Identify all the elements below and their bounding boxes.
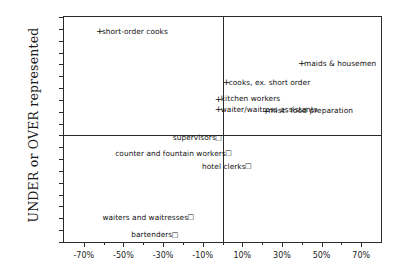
data-point-label: supervisors [173, 133, 216, 142]
data-point: +short-order cooks [96, 27, 104, 36]
y-axis-tick [59, 171, 64, 172]
x-axis-tick [322, 242, 323, 247]
zero-line-vertical [223, 17, 224, 242]
data-point: +kitchen workers [215, 94, 223, 103]
x-axis-tick [361, 242, 362, 247]
data-point-label: cooks, ex. short order [229, 78, 311, 87]
x-axis-tick [163, 242, 164, 247]
x-axis-tick [84, 242, 85, 247]
x-axis-tick-minor [104, 242, 105, 245]
y-axis-tick [59, 64, 64, 65]
scatter-chart: UNDER or OVER represented 100%90%80%70%6… [0, 0, 399, 278]
data-point-label: bartenders [131, 230, 172, 239]
x-axis-tick-minor [341, 242, 342, 245]
y-axis-tick [59, 17, 64, 18]
x-axis-tick-minor [183, 242, 184, 245]
data-point: +waiter/waitress assistants [215, 105, 223, 114]
x-axis-tick-minor [223, 242, 224, 245]
data-point-label: maids & housemen [304, 59, 376, 68]
y-axis-tick [59, 218, 64, 219]
y-axis-tick [59, 100, 64, 101]
x-axis-tick-minor [302, 242, 303, 245]
y-axis-tick [59, 159, 64, 160]
x-axis-tick-label: 70% [331, 251, 391, 260]
data-point-label: misc. food preparation [268, 106, 353, 115]
x-axis-tick [203, 242, 204, 247]
x-axis-tick-minor [262, 242, 263, 245]
data-point-label: hotel clerks [202, 162, 246, 171]
data-point: □waiters and waitresses [187, 214, 194, 221]
y-axis-tick [59, 147, 64, 148]
y-axis-tick [59, 242, 64, 243]
y-axis-tick [59, 88, 64, 89]
y-axis-tick [59, 124, 64, 125]
data-point: □bartenders [172, 231, 179, 238]
data-point: □hotel clerks [245, 163, 252, 170]
data-point: +cooks, ex. short order [223, 78, 231, 87]
y-axis-tick [59, 195, 64, 196]
y-axis-tick [59, 29, 64, 30]
square-marker-icon: □ [215, 134, 222, 141]
data-point: □supervisors [215, 134, 222, 141]
data-point-label: counter and fountain workers [115, 149, 226, 158]
y-axis-tick [59, 206, 64, 207]
x-axis-tick-minor [143, 242, 144, 245]
data-point-label: waiters and waitresses [102, 213, 188, 222]
data-point-label: short-order cooks [102, 27, 168, 36]
data-point-label: kitchen workers [221, 94, 280, 103]
y-axis-tick [59, 76, 64, 77]
zero-line-horizontal [64, 135, 381, 136]
square-marker-icon: □ [187, 214, 194, 221]
data-point: +maids & housemen [298, 59, 306, 68]
data-point: □counter and fountain workers [225, 150, 232, 157]
data-point: +misc. food preparation [262, 106, 270, 115]
y-axis-tick [59, 112, 64, 113]
x-axis-tick [242, 242, 243, 247]
y-axis-tick [59, 53, 64, 54]
x-axis-tick [282, 242, 283, 247]
y-axis-tick [59, 41, 64, 42]
y-axis-tick [59, 135, 64, 136]
y-axis-title: UNDER or OVER represented [26, 33, 41, 223]
y-axis-tick [59, 230, 64, 231]
x-axis-tick [123, 242, 124, 247]
plot-area: 100%90%80%70%60%50%40%30%20%10%0%-10%-20… [63, 16, 382, 243]
square-marker-icon: □ [172, 231, 179, 238]
y-axis-tick [59, 183, 64, 184]
